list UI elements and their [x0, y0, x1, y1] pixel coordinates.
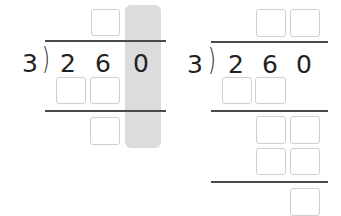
dividend-digit: 6 [95, 51, 111, 76]
division-bar [211, 41, 328, 43]
dividend-digit: 6 [262, 52, 278, 77]
remainder-box[interactable] [90, 117, 120, 145]
step-box[interactable] [290, 116, 320, 144]
subtraction-line [211, 181, 328, 183]
dividend-digit: 0 [133, 51, 149, 76]
division-bar [45, 40, 166, 42]
dividend-digit: 0 [296, 52, 312, 77]
step-box[interactable] [256, 116, 286, 144]
dividend-digit: 2 [228, 52, 244, 77]
step-box[interactable] [56, 77, 86, 104]
subtraction-line [45, 110, 166, 112]
step-box[interactable] [256, 148, 286, 175]
quotient-box[interactable] [256, 9, 286, 37]
quotient-box[interactable] [290, 9, 320, 37]
step-box[interactable] [255, 77, 286, 104]
division-bracket: ) [42, 44, 50, 74]
step-box[interactable] [222, 77, 252, 104]
dividend-digit: 2 [60, 51, 76, 76]
divisor: 3 [22, 51, 38, 76]
quotient-box[interactable] [91, 9, 120, 36]
step-box[interactable] [90, 77, 120, 104]
step-box[interactable] [290, 148, 320, 175]
remainder-box[interactable] [290, 188, 320, 216]
divisor: 3 [187, 52, 203, 77]
division-bracket: ) [208, 45, 216, 75]
subtraction-line [211, 110, 328, 112]
